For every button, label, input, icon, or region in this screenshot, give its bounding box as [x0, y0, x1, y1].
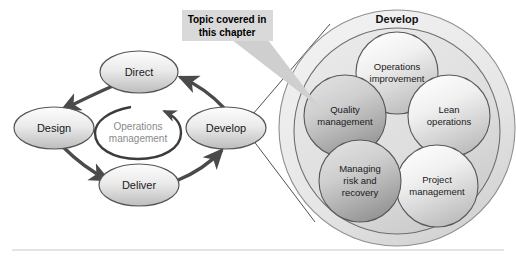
cycle-node-develop[interactable]: Develop [186, 107, 266, 149]
topic-project-management[interactable]: Project management [396, 145, 478, 227]
operations-cycle-group: Operations management Direct Design Deli… [14, 51, 266, 206]
topic-label-line3: recovery [342, 187, 379, 198]
magnified-develop-group: Develop Operations improvement Quality m… [253, 10, 515, 246]
cycle-center-label-line2: management [109, 133, 168, 144]
cycle-node-design[interactable]: Design [14, 107, 94, 149]
cycle-node-deliver[interactable]: Deliver [99, 164, 179, 206]
topic-label-line1: Managing [339, 163, 381, 174]
topic-label-line2: management [317, 116, 373, 127]
magnified-title: Develop [376, 13, 419, 25]
topic-label-line2: risk and [343, 175, 376, 186]
diagram-svg: Develop Operations improvement Quality m… [0, 0, 516, 266]
arrow-design-to-deliver [62, 146, 108, 180]
topic-label-line1: Lean [438, 104, 459, 115]
callout-line2: this chapter [199, 27, 256, 38]
cycle-node-direct[interactable]: Direct [100, 51, 178, 93]
callout-line1: Topic covered in [188, 14, 267, 25]
topic-label-line1: Project [422, 174, 452, 185]
topic-label-line2: operations [427, 116, 472, 127]
cycle-node-label: Develop [206, 122, 246, 134]
topic-label-line2: improvement [370, 73, 425, 84]
arrow-develop-to-direct [180, 77, 224, 108]
topic-label-line1: Quality [330, 104, 360, 115]
figure-canvas: Develop Operations improvement Quality m… [0, 0, 516, 266]
cycle-node-label: Direct [125, 66, 154, 78]
cycle-center-label-line1: Operations [114, 121, 163, 132]
topic-label-line1: Operations [374, 61, 421, 72]
arrow-direct-to-design [62, 85, 115, 110]
topic-label-line2: management [409, 186, 465, 197]
topic-managing-risk-and-recovery[interactable]: Managing risk and recovery [319, 140, 401, 222]
arrow-deliver-to-develop [176, 150, 222, 181]
topic-lean-operations[interactable]: Lean operations [408, 75, 490, 157]
cycle-node-label: Deliver [122, 179, 157, 191]
cycle-node-label: Design [37, 122, 71, 134]
